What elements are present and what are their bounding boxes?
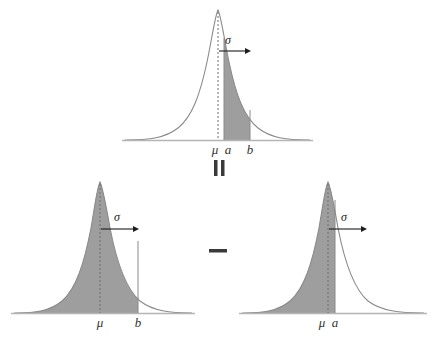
axis-label-mu-top: μ — [211, 142, 219, 157]
axis-label-mu-bottom-left: μ — [96, 315, 104, 330]
axis-label-a-top: a — [225, 142, 232, 157]
axis-label-b-top: b — [247, 142, 254, 157]
chart-bottom-left-cumulative-to-b: σ μ b — [10, 178, 195, 330]
axis-label-b-bottom-left: b — [135, 315, 142, 330]
sigma-label-bottom-right: σ — [341, 210, 348, 224]
operator-minus: − — [209, 249, 227, 253]
axis-label-mu-bottom-right: μ — [318, 315, 326, 330]
shaded-region-left-of-b — [10, 178, 138, 314]
shaded-region-a-to-b — [224, 5, 250, 140]
sigma-label-top: σ — [225, 33, 232, 47]
probability-decomposition-figure: σ μ a b = σ μ b − — [0, 0, 432, 342]
axis-label-a-bottom-right: a — [332, 315, 339, 330]
chart-bottom-right-cumulative-to-a: σ μ a — [238, 178, 427, 330]
operator-equals: = — [214, 160, 225, 176]
shaded-region-left-of-a — [238, 178, 335, 314]
sigma-label-bottom-left: σ — [114, 210, 121, 224]
chart-top-interval-probability: σ μ a b — [122, 5, 313, 157]
